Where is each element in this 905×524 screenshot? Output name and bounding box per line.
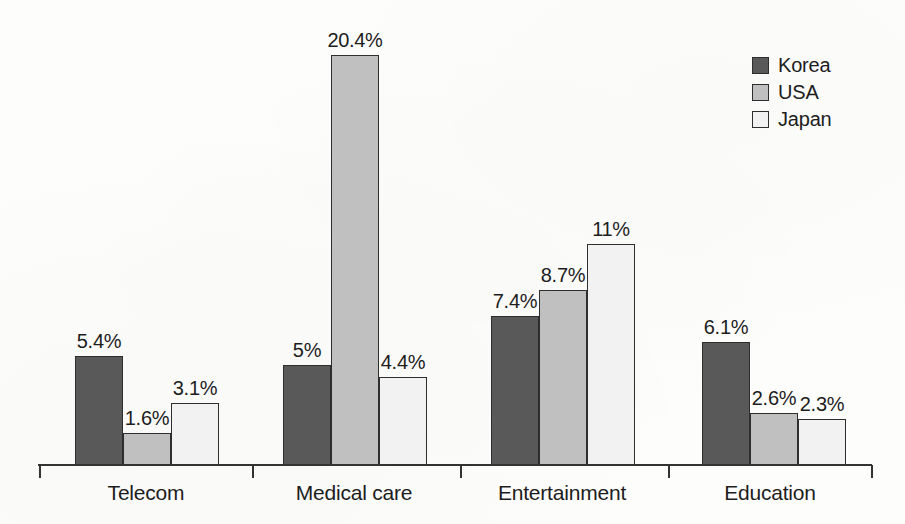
bar-value-label-japan-education: 2.3%	[776, 393, 868, 416]
bar-chart: 5.4%1.6%3.1%5%20.4%4.4%7.4%8.7%11%6.1%2.…	[0, 0, 905, 524]
bar-japan-education	[798, 419, 846, 465]
x-axis-line	[38, 464, 872, 466]
x-axis-tick-2	[460, 465, 462, 478]
bar-usa-medical-care	[331, 55, 379, 465]
legend-item-usa: USA	[752, 79, 832, 106]
bar-japan-medical-care	[379, 377, 427, 465]
bar-value-label-korea-education: 6.1%	[680, 316, 772, 339]
x-axis-tick-4	[871, 465, 873, 478]
x-axis-tick-1	[252, 465, 254, 478]
bar-value-label-japan-telecom: 3.1%	[149, 377, 241, 400]
x-axis-tick-3	[668, 465, 670, 478]
legend-swatch-korea	[752, 57, 769, 74]
x-axis-label-telecom: Telecom	[46, 481, 246, 505]
bar-usa-telecom	[123, 433, 171, 465]
legend-swatch-usa	[752, 84, 769, 101]
x-axis-tick-0	[39, 465, 41, 478]
legend-label-japan: Japan	[778, 108, 832, 131]
bar-japan-telecom	[171, 403, 219, 465]
legend-item-korea: Korea	[752, 52, 832, 79]
legend-swatch-japan	[752, 111, 769, 128]
bar-usa-education	[750, 413, 798, 465]
bar-japan-entertainment	[587, 244, 635, 465]
bar-value-label-japan-entertainment: 11%	[565, 218, 657, 241]
bar-korea-medical-care	[283, 365, 331, 466]
legend-label-usa: USA	[778, 81, 819, 104]
x-axis-label-medical-care: Medical care	[254, 481, 454, 505]
bar-korea-entertainment	[491, 316, 539, 465]
bar-value-label-japan-medical-care: 4.4%	[357, 351, 449, 374]
bar-value-label-usa-medical-care: 20.4%	[309, 29, 401, 52]
chart-legend: Korea USA Japan	[752, 52, 832, 133]
bar-usa-entertainment	[539, 290, 587, 465]
x-axis-label-entertainment: Entertainment	[462, 481, 662, 505]
bar-value-label-korea-telecom: 5.4%	[53, 330, 145, 353]
x-axis-label-education: Education	[670, 481, 870, 505]
legend-label-korea: Korea	[778, 54, 830, 77]
legend-item-japan: Japan	[752, 106, 832, 133]
